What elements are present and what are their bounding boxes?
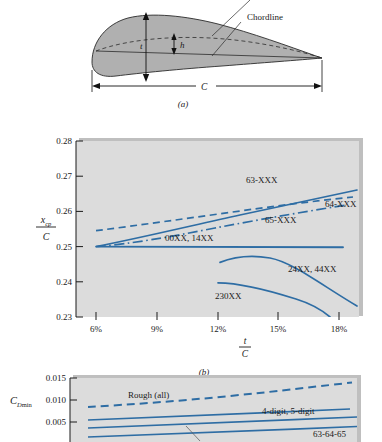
plot-c-y-axis-label: CDmin [10,395,33,408]
x-tick-label: 15% [270,324,287,334]
y-tick-label: 0.25 [56,242,72,252]
svg-text:xcp: xcp [40,214,52,227]
panel-c-chart: 0.015 0.010 0.005 CDmin Rough (all) 4-di… [10,373,361,442]
x-tick-label: 18% [331,324,348,334]
figure-canvas: t h Chordline C (a) [0,0,382,442]
curve-label-4digit-5digit: 4-digit, 5-digit [262,406,315,416]
y-tick-label: 0.24 [56,277,72,287]
curve-label-00xx-14xx: 00XX, 14XX [165,233,214,243]
curve-00xx-14xx [98,247,343,248]
chordline-label: Chordline [247,12,283,22]
plot-b-x-axis-label: t C [239,336,251,359]
camber-label: h [180,40,185,50]
x-axis-denominator: C [242,349,249,359]
x-tick-label: 6% [90,324,103,334]
x-tick-label: 12% [210,324,227,334]
y-tick-label: 0.28 [56,136,72,146]
panel-b-chart: 0.28 0.27 0.26 0.25 0.24 0.23 xcp C 6% 9… [36,136,363,377]
curve-label-63-64-65: 63-64-65 [313,429,346,439]
curve-label-230xx: 230XX [215,291,242,301]
figure-airfoil-characteristics: t h Chordline C (a) [0,0,382,442]
cd-sub2: min [22,401,33,408]
y-axis-numerator-sub: cp [45,220,52,227]
plot-b-y-axis-label: xcp C [36,214,56,242]
curve-label-24xx-44xx: 24XX, 44XX [288,264,337,274]
x-axis-numerator: t [244,336,247,346]
y-axis-denominator: C [43,231,50,242]
y-tick-label: 0.26 [56,206,72,216]
y-tick-label: 0.010 [46,395,67,405]
curve-label-rough-all: Rough (all) [128,390,169,400]
airfoil-shape [92,15,322,76]
panel-a-caption: (a) [178,99,189,109]
panel-a-airfoil-diagram: t h Chordline C (a) [92,0,322,109]
y-tick-label: 0.23 [56,312,72,322]
curve-label-65-xxx: 65-XXX [265,215,297,225]
curve-label-64-xxx: 64-XXX [325,199,357,209]
chord-label: C [201,82,208,92]
y-tick-label: 0.005 [46,417,67,427]
x-tick-label: 9% [151,324,164,334]
curve-label-63-xxx: 63-XXX [246,175,278,185]
y-tick-label: 0.27 [56,171,72,181]
y-tick-label: 0.015 [46,373,67,383]
